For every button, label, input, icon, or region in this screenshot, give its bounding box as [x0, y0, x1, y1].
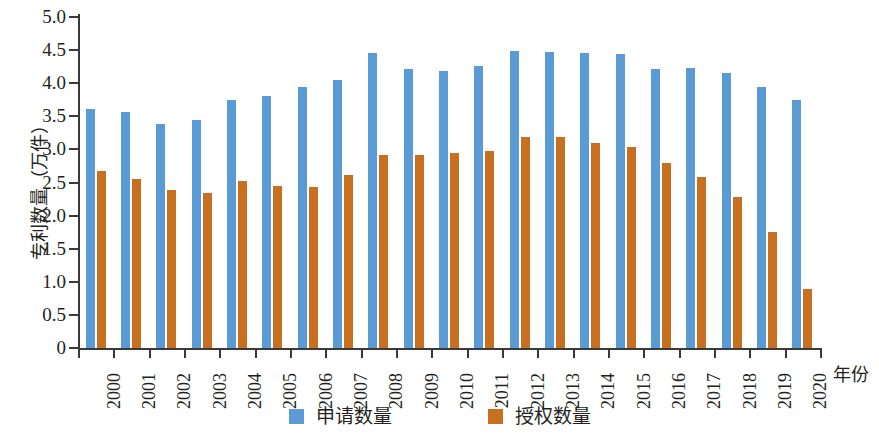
bar-application-count [792, 100, 801, 348]
bar-granted-count [521, 137, 530, 348]
x-axis-line [78, 348, 822, 350]
x-axis-tick [149, 348, 151, 358]
bar-granted-count [238, 181, 247, 349]
bar-application-count [510, 51, 519, 348]
bar-group [298, 17, 318, 348]
bar-group [757, 17, 777, 348]
bar-group [227, 17, 247, 348]
y-axis-tick [69, 16, 78, 18]
bar-application-count [262, 96, 271, 348]
bar-application-count [333, 80, 342, 348]
bar-group [368, 17, 388, 348]
x-axis-title: 年份 [833, 360, 869, 386]
y-axis-tick-label: 2.5 [20, 173, 66, 192]
bar-application-count [580, 53, 589, 348]
legend-item: 授权数量 [488, 407, 591, 426]
y-axis-tick [69, 215, 78, 217]
bar-group [510, 17, 530, 348]
bar-group [686, 17, 706, 348]
bar-granted-count [203, 193, 212, 348]
bar-group [262, 17, 282, 348]
x-axis-tick [184, 348, 186, 358]
y-axis-tick-label: 0 [20, 338, 66, 357]
bar-application-count [651, 69, 660, 348]
y-axis-tick-label: 2.0 [20, 206, 66, 225]
legend-label: 申请数量 [316, 407, 392, 426]
y-axis-tick-label: 5.0 [20, 7, 66, 26]
x-axis-tick [537, 348, 539, 358]
bar-application-count [545, 52, 554, 348]
bar-application-count [192, 120, 201, 348]
bar-application-count [404, 69, 413, 348]
bar-group [86, 17, 106, 348]
y-axis-tick-label: 4.5 [20, 40, 66, 59]
bar-granted-count [167, 190, 176, 348]
y-axis-tick-label: 4.0 [20, 73, 66, 92]
bar-granted-count [97, 171, 106, 348]
bar-application-count [227, 100, 236, 348]
legend-swatch-icon [488, 409, 503, 424]
x-axis-tick [714, 348, 716, 358]
legend-swatch-icon [289, 409, 304, 424]
x-axis-tick [219, 348, 221, 358]
bar-group [651, 17, 671, 348]
bar-granted-count [556, 137, 565, 348]
bar-application-count [686, 68, 695, 348]
bar-application-count [616, 54, 625, 348]
x-axis-tick [361, 348, 363, 358]
y-axis-tick [69, 248, 78, 250]
bar-application-count [86, 109, 95, 348]
y-axis-tick [69, 182, 78, 184]
bar-granted-count [627, 147, 636, 348]
bar-granted-count [132, 179, 141, 348]
bar-group [192, 17, 212, 348]
x-axis-tick [608, 348, 610, 358]
x-axis-tick [785, 348, 787, 358]
x-axis-tick [396, 348, 398, 358]
bar-application-count [439, 71, 448, 348]
x-axis-tick [467, 348, 469, 358]
bar-granted-count [344, 175, 353, 348]
x-axis-tick [255, 348, 257, 358]
legend-label: 授权数量 [515, 407, 591, 426]
x-axis-tick [290, 348, 292, 358]
chart-legend: 申请数量授权数量 [0, 407, 879, 426]
y-axis-tick-label: 3.5 [20, 106, 66, 125]
bar-group [439, 17, 459, 348]
bar-application-count [298, 87, 307, 349]
bar-granted-count [803, 289, 812, 348]
y-axis-tick [69, 148, 78, 150]
y-axis-tick-label: 0.5 [20, 305, 66, 324]
bar-group [580, 17, 600, 348]
y-axis-tick [69, 314, 78, 316]
bar-granted-count [697, 177, 706, 348]
bar-group [333, 17, 353, 348]
bar-group [792, 17, 812, 348]
bar-application-count [722, 73, 731, 348]
y-axis-tick [69, 82, 78, 84]
bar-granted-count [415, 155, 424, 348]
bar-granted-count [379, 155, 388, 348]
y-axis-tick [69, 49, 78, 51]
bar-application-count [121, 112, 130, 348]
legend-item: 申请数量 [289, 407, 392, 426]
bar-group [722, 17, 742, 348]
bar-granted-count [450, 153, 459, 348]
x-axis-tick [573, 348, 575, 358]
y-axis-tick [69, 115, 78, 117]
bar-application-count [156, 124, 165, 348]
bar-group [156, 17, 176, 348]
x-axis-tick [325, 348, 327, 358]
x-axis-tick [679, 348, 681, 358]
y-axis-tick [69, 347, 78, 349]
bar-group [545, 17, 565, 348]
bar-chart-figure: 专利数量（万件） 00.51.01.52.02.53.03.54.04.55.0… [0, 0, 879, 435]
bar-granted-count [591, 143, 600, 348]
x-axis-tick [749, 348, 751, 358]
x-axis-tick [78, 348, 80, 358]
plot-area: 00.51.01.52.02.53.03.54.04.55.0 20002001… [78, 17, 820, 348]
y-axis-tick-label: 3.0 [20, 139, 66, 158]
bar-granted-count [768, 232, 777, 349]
bar-granted-count [309, 187, 318, 349]
x-axis-tick [431, 348, 433, 358]
